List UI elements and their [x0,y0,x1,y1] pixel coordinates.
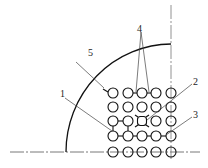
tube-layout-diagram [0,0,208,168]
leader-lines [65,32,192,135]
callout-1: 1 [60,89,65,99]
callout-5: 5 [88,48,93,58]
callout-3: 3 [193,110,198,120]
callout-4: 4 [137,24,142,34]
leader-4a [136,32,141,92]
tube-grid [108,88,176,157]
leader-4b [141,32,149,92]
callout-2: 2 [193,77,198,87]
special-tube-2 [135,115,149,127]
